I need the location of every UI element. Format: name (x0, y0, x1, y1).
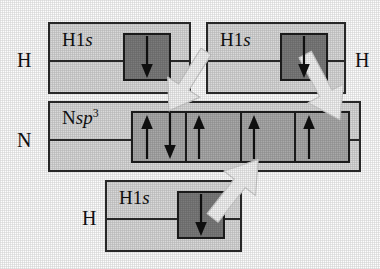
orbital-label-h-bottom: H1s (119, 188, 150, 207)
spin-arrow-down-h-top-left (140, 36, 154, 78)
orbital-label-n-sp3: Nsp3 (62, 108, 99, 127)
atom-label-h-top-right: H (355, 50, 369, 70)
spin-arrow-up-sp3-cell-4 (302, 113, 316, 159)
spin-arrow-up-sp3-cell-3 (247, 113, 261, 159)
atom-label-n-center: N (17, 130, 31, 150)
spin-arrow-up-sp3-cell-1 (140, 113, 154, 159)
orbital-label-h-top-right: H1s (220, 30, 251, 49)
orbital-diagram: H1s H H1s H Nsp3 N (0, 0, 380, 269)
spin-arrow-down-sp3-cell-1 (163, 113, 177, 159)
orbital-label-h-top-left: H1s (62, 30, 93, 49)
atom-label-h-top-left: H (17, 50, 31, 70)
spin-arrow-down-h-bottom (194, 194, 208, 236)
atom-label-h-bottom: H (82, 208, 96, 228)
spin-arrow-down-h-top-right (297, 36, 311, 78)
spin-arrow-up-sp3-cell-2 (192, 113, 206, 159)
